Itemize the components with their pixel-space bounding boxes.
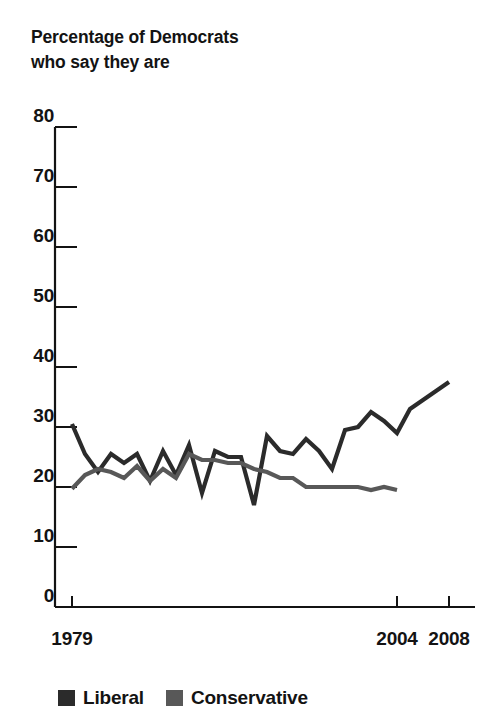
y-tick-label-40: 40 bbox=[12, 346, 54, 365]
legend-swatch-liberal bbox=[58, 690, 75, 706]
y-tick-label-30: 30 bbox=[12, 406, 54, 425]
y-tick-label-80: 80 bbox=[12, 106, 54, 125]
legend-item-conservative[interactable]: Conservative bbox=[166, 688, 308, 707]
y-tick-label-60: 60 bbox=[12, 226, 54, 245]
legend-label-liberal: Liberal bbox=[83, 688, 144, 707]
y-tick-label-0: 0 bbox=[12, 586, 54, 605]
series-line-liberal bbox=[72, 382, 449, 505]
x-tick-label-1979: 1979 bbox=[37, 629, 107, 648]
x-tick-label-2008: 2008 bbox=[414, 629, 484, 648]
legend-item-liberal[interactable]: Liberal bbox=[58, 688, 144, 707]
y-tick-label-70: 70 bbox=[12, 166, 54, 185]
chart-plot-area bbox=[0, 0, 503, 725]
y-tick-label-10: 10 bbox=[12, 526, 54, 545]
legend-label-conservative: Conservative bbox=[191, 688, 308, 707]
chart-legend: LiberalConservative bbox=[58, 688, 308, 707]
legend-swatch-conservative bbox=[166, 690, 183, 706]
y-tick-label-50: 50 bbox=[12, 286, 54, 305]
y-tick-label-20: 20 bbox=[12, 466, 54, 485]
chart-axes bbox=[55, 127, 475, 607]
chart-figure: Percentage of Democrats who say they are… bbox=[0, 0, 503, 725]
chart-series bbox=[72, 382, 449, 505]
